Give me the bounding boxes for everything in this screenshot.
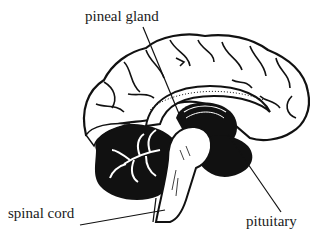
brain-diagram: pineal gland spinal cord pituitary: [0, 0, 335, 245]
label-pituitary: pituitary: [246, 214, 297, 229]
label-pineal-gland: pineal gland: [85, 9, 159, 24]
spinal-leader: [80, 210, 165, 225]
label-spinal-cord: spinal cord: [8, 206, 74, 221]
spinal-tick: [153, 198, 156, 222]
